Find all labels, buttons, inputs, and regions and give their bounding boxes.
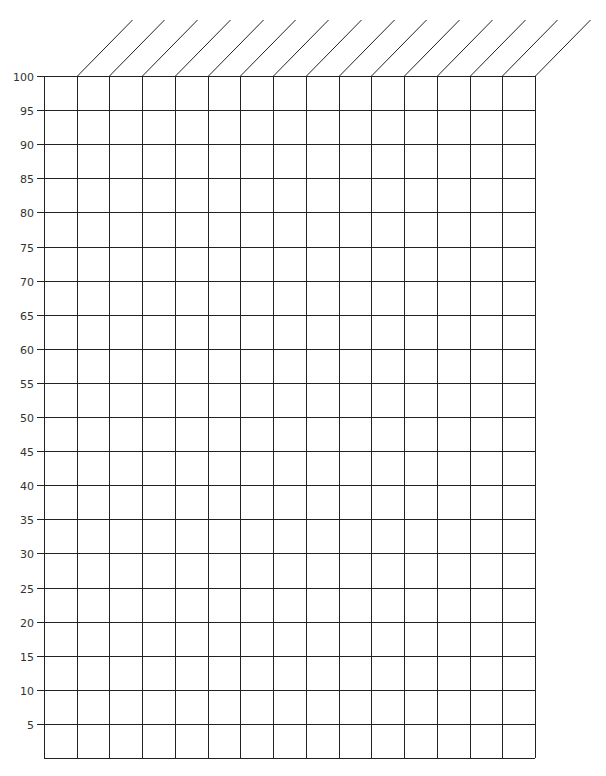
column-header-slant xyxy=(503,20,558,76)
y-tick-label: 75 xyxy=(20,242,34,255)
bar-graph-template: 1009590858075706560555045403530252015105 xyxy=(0,0,606,776)
column-header-slant xyxy=(274,20,329,76)
y-tick-label: 50 xyxy=(20,412,34,425)
horizontal-gridlines xyxy=(37,77,535,759)
y-tick-label: 5 xyxy=(27,719,34,732)
y-tick-label: 25 xyxy=(20,583,34,596)
y-tick-label: 90 xyxy=(20,139,34,152)
y-tick-label: 65 xyxy=(20,310,34,323)
y-tick-label: 95 xyxy=(20,105,34,118)
y-tick-label: 10 xyxy=(20,685,34,698)
y-tick-label: 70 xyxy=(20,276,34,289)
column-header-slant xyxy=(438,20,493,76)
y-tick-label: 35 xyxy=(20,514,34,527)
column-header-slant xyxy=(340,20,395,76)
column-header-slant xyxy=(405,20,460,76)
column-header-slant xyxy=(176,20,231,76)
column-header-slants xyxy=(78,20,591,76)
column-header-slant xyxy=(372,20,427,76)
y-tick-label: 20 xyxy=(20,617,34,630)
y-tick-label: 55 xyxy=(20,378,34,391)
column-header-slant xyxy=(78,20,133,76)
column-header-slant xyxy=(143,20,198,76)
y-tick-label: 45 xyxy=(20,446,34,459)
column-header-slant xyxy=(209,20,264,76)
y-axis-labels: 1009590858075706560555045403530252015105 xyxy=(13,71,34,732)
y-tick-label: 85 xyxy=(20,173,34,186)
column-header-slant xyxy=(536,20,591,76)
y-tick-label: 15 xyxy=(20,651,34,664)
y-tick-label: 60 xyxy=(20,344,34,357)
y-tick-label: 40 xyxy=(20,480,34,493)
y-tick-label: 30 xyxy=(20,548,34,561)
column-header-slant xyxy=(241,20,296,76)
y-tick-label: 80 xyxy=(20,207,34,220)
column-header-slant xyxy=(471,20,526,76)
y-tick-label: 100 xyxy=(13,71,34,84)
column-header-slant xyxy=(307,20,362,76)
column-header-slant xyxy=(110,20,165,76)
